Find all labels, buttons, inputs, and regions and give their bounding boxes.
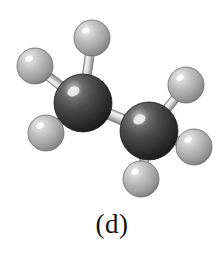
ethane-molecule-diagram <box>0 0 224 210</box>
figure-caption: (d) <box>0 208 224 240</box>
atom-carbon-right <box>120 102 178 160</box>
figure-panel: (d) <box>0 0 224 253</box>
atom-hydrogen-upper-left <box>17 48 53 84</box>
atom-hydrogen-upper-right <box>168 67 204 103</box>
atom-hydrogen-lower-left <box>28 115 64 151</box>
atom-carbon-left <box>54 74 112 132</box>
atom-hydrogen-top <box>74 20 110 56</box>
atom-hydrogen-right <box>176 129 212 165</box>
atom-layer <box>17 20 212 197</box>
atom-hydrogen-bottom <box>123 161 159 197</box>
